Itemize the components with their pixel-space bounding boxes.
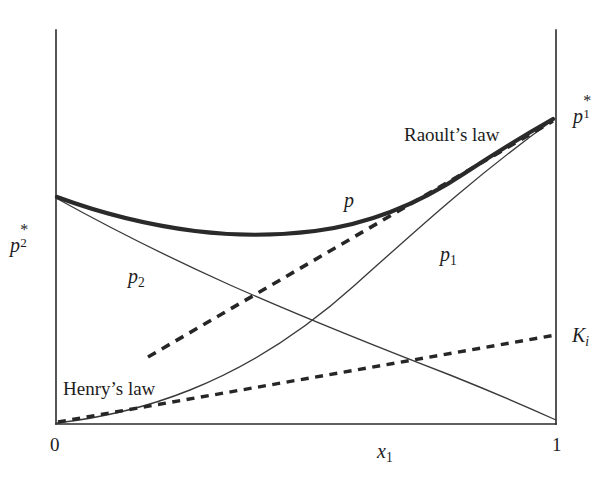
y-axis-right-label-scripts: *1 xyxy=(583,103,595,123)
annotation-henrys-law: Henry’s law xyxy=(63,379,155,398)
annotation-henry-constant: Ki xyxy=(572,325,589,348)
x-axis-title-symbol: x xyxy=(377,440,386,462)
y-axis-left-label: p*2 xyxy=(10,232,32,255)
annotation-p2: p2 xyxy=(128,266,145,289)
x-axis-title-sub: 1 xyxy=(386,450,393,465)
annotation-p1-symbol: p xyxy=(440,243,450,265)
y-axis-right-label: p*1 xyxy=(573,103,595,126)
x-tick-label-0: 0 xyxy=(50,435,60,454)
figure-root: p*2 p*1 Raoult’s law Henry’s law p p1 p2… xyxy=(0,0,612,479)
annotation-henry-constant-symbol: K xyxy=(572,324,585,346)
plot-canvas xyxy=(0,0,612,479)
x-tick-label-1: 1 xyxy=(552,435,562,454)
annotation-p2-sub: 2 xyxy=(138,275,145,290)
x-axis-title: x1 xyxy=(377,441,393,464)
annotation-p2-symbol: p xyxy=(128,265,138,287)
y-axis-left-label-symbol: p xyxy=(10,234,20,256)
annotation-raoults-law: Raoult’s law xyxy=(404,125,500,144)
annotation-p1-sub: 1 xyxy=(450,253,457,268)
y-axis-right-label-symbol: p xyxy=(573,105,583,127)
annotation-p1: p1 xyxy=(440,244,457,267)
annotation-henry-constant-sub: i xyxy=(585,334,589,349)
y-axis-left-label-scripts: *2 xyxy=(20,232,32,252)
annotation-p-total: p xyxy=(344,190,354,210)
